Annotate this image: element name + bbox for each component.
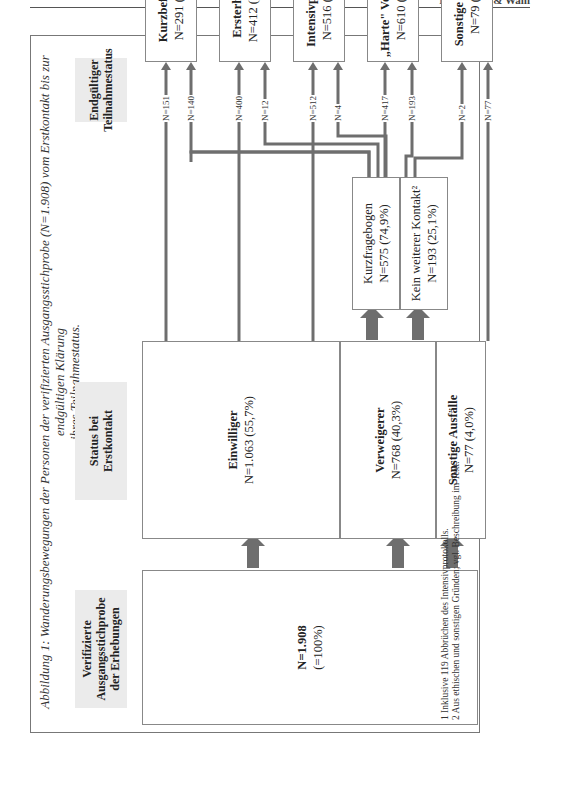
box-label: Kurzbefragung xyxy=(155,0,171,42)
box-label: Ersterhebung xyxy=(229,0,245,38)
arrowhead-icon xyxy=(161,62,171,70)
box-label: „Harte" Verweigerer xyxy=(377,0,393,57)
footnote-1: 1 Inklusive 119 Abbrüchen des Intensivpr… xyxy=(440,461,451,720)
arrowhead-icon xyxy=(380,62,390,70)
flow-label: N=77 xyxy=(483,99,493,122)
arrowhead-icon xyxy=(407,62,417,70)
figure-landscape: Abbildung 1: Wanderungsbewegungen der Pe… xyxy=(0,0,568,812)
arrowhead-icon xyxy=(186,62,196,70)
footnote-2: 2 Aus ethischen und sonstigen Gründen; v… xyxy=(451,461,462,720)
box-value: N=610 (32,0%) xyxy=(393,0,409,40)
footnotes: 1 Inklusive 119 Abbrüchen des Intensivpr… xyxy=(440,461,462,720)
arrowhead-icon xyxy=(483,62,493,70)
flow-label: N=417 xyxy=(380,95,390,122)
flow-label: N=512 xyxy=(308,95,318,122)
box-value: N=516 (27,0%) xyxy=(319,0,335,40)
flow-label: N=151 xyxy=(161,95,171,122)
arrowheads xyxy=(161,62,493,70)
arrowhead-icon xyxy=(308,62,318,70)
box-intensivprotokoll: Intensivprotokoll N=516 (27,0%) xyxy=(293,0,345,62)
arrowhead-icon xyxy=(333,62,343,70)
flow-label: N=193 xyxy=(407,95,417,122)
box-value: N=412 (21,6%)¹ xyxy=(245,0,261,42)
flow-label: N=140 xyxy=(186,95,196,122)
box-label: Intensivprotokoll xyxy=(303,0,319,47)
box-kurzbefragung: Kurzbefragung N=291 (15,3%) xyxy=(145,0,197,62)
arrowhead-icon xyxy=(234,62,244,70)
box-value: N=291 (15,3%) xyxy=(171,0,187,40)
flow-label: N=2 xyxy=(457,104,467,122)
box-ersterhebung: Ersterhebung N=412 (21,6%)¹ xyxy=(219,0,271,62)
flow-label: N=4 xyxy=(333,104,343,122)
box-label: Sonstige Ausfälle xyxy=(451,0,467,46)
box-value: N=79 (4,1%) xyxy=(467,0,483,34)
flow-label: N=12 xyxy=(260,99,270,122)
box-harte-verweigerer: „Harte" Verweigerer N=610 (32,0%) xyxy=(367,0,419,62)
arrowhead-icon xyxy=(260,62,270,70)
flow-label: N=400 xyxy=(234,95,244,122)
box-sonstige-ausfaelle-final: Sonstige Ausfälle N=79 (4,1%) xyxy=(441,0,493,62)
arrowhead-icon xyxy=(457,62,467,70)
